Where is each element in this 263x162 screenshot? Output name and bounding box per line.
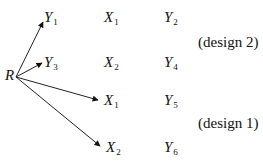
- node-y3: Y3: [44, 55, 58, 72]
- node-y4: Y4: [164, 55, 178, 72]
- arrow-r-to-x1: [16, 77, 98, 100]
- node-y5: Y5: [164, 93, 178, 110]
- node-x2-arrow: X2: [106, 140, 121, 157]
- node-x1-arrow: X1: [104, 93, 119, 110]
- arrow-r-to-x2: [16, 77, 100, 146]
- node-y6: Y6: [164, 140, 178, 157]
- node-y1: Y1: [44, 10, 58, 27]
- arrow-r-to-y1: [16, 22, 43, 77]
- label-r: R: [5, 68, 14, 83]
- group-label-design1: (design 1): [198, 116, 258, 131]
- arrow-layer: [0, 0, 263, 162]
- group-label-design2: (design 2): [198, 35, 258, 50]
- node-y2: Y2: [164, 10, 178, 27]
- node-x1-col2: X1: [104, 10, 119, 27]
- node-x2-col2: X2: [104, 55, 119, 72]
